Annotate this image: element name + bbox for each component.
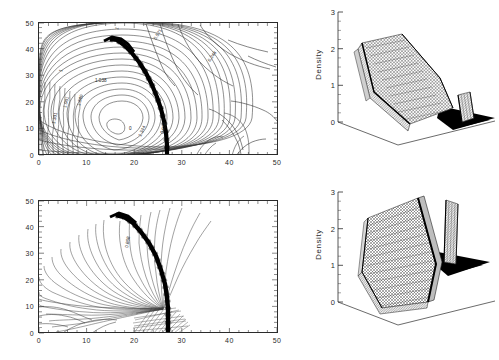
mesh-surface-bottom-right — [358, 196, 442, 314]
xtick-30: 30 — [178, 337, 187, 344]
ytick-10: 10 — [20, 303, 34, 310]
xtick-30: 30 — [178, 159, 187, 166]
streamline-plot-bottom-left: 0.868 — [0, 180, 290, 360]
contour-lines-top-left — [39, 22, 277, 156]
figure-container: 1 0.571 0.244 1.038 1 1.901 1.560 1.301 … — [0, 0, 499, 360]
ztick-1: 1 — [331, 81, 335, 90]
ytick-10: 10 — [20, 125, 34, 132]
ytick-40: 40 — [20, 223, 34, 230]
xtick-20: 20 — [130, 159, 139, 166]
xtick-50: 50 — [273, 159, 282, 166]
xtick-0: 0 — [37, 337, 41, 344]
ytick-30: 30 — [20, 250, 34, 257]
axis-ticks-top-left — [39, 23, 277, 155]
streamlines-bottom-left — [39, 208, 211, 333]
z-axis-top-right — [338, 12, 343, 122]
z-axis-label-density: Density — [314, 35, 323, 95]
svg-text:1.560: 1.560 — [76, 93, 84, 106]
xtick-40: 40 — [225, 159, 234, 166]
contour-plot-top-left: 1 0.571 0.244 1.038 1 1.901 1.560 1.301 … — [0, 0, 290, 180]
xtick-50: 50 — [273, 337, 282, 344]
z-axis-label-density: Density — [314, 215, 323, 275]
xtick-40: 40 — [225, 337, 234, 344]
ztick-2: 2 — [331, 224, 335, 233]
panel-bottom-right-surface: 3 2 1 0 Density — [290, 180, 499, 360]
ztick-3: 3 — [331, 8, 335, 17]
ytick-30: 30 — [20, 72, 34, 79]
secondary-ridge-bottom-right — [444, 200, 458, 264]
ytick-20: 20 — [20, 276, 34, 283]
svg-text:1.344: 1.344 — [137, 124, 146, 137]
panel-top-left-contour: 1 0.571 0.244 1.038 1 1.901 1.560 1.301 … — [0, 0, 290, 180]
ytick-20: 20 — [20, 98, 34, 105]
ztick-1: 1 — [331, 261, 335, 270]
xtick-0: 0 — [37, 159, 41, 166]
ytick-50: 50 — [20, 20, 34, 27]
svg-text:1.038: 1.038 — [95, 78, 107, 83]
xtick-10: 10 — [82, 337, 91, 344]
ytick-40: 40 — [20, 45, 34, 52]
svg-text:1.301: 1.301 — [51, 111, 58, 124]
ztick-0: 0 — [331, 118, 335, 127]
ytick-50: 50 — [20, 198, 34, 205]
ztick-0: 0 — [331, 298, 335, 307]
xtick-10: 10 — [82, 159, 91, 166]
ztick-3: 3 — [331, 188, 335, 197]
xtick-20: 20 — [130, 337, 139, 344]
svg-text:1: 1 — [58, 68, 64, 72]
ztick-2: 2 — [331, 44, 335, 53]
ytick-0: 0 — [20, 152, 34, 159]
panel-bottom-left-streamlines: 0.868 0 10 20 30 40 50 0 10 20 30 40 50 — [0, 180, 290, 360]
panel-top-right-surface: 3 2 1 0 Density — [290, 0, 499, 180]
svg-text:1: 1 — [114, 26, 120, 30]
contour-value-labels-top-left: 1 0.571 0.244 1.038 1 1.901 1.560 1.301 … — [51, 26, 218, 137]
z-axis-bottom-right — [338, 192, 343, 302]
ytick-0: 0 — [20, 330, 34, 337]
svg-text:0: 0 — [129, 126, 132, 131]
